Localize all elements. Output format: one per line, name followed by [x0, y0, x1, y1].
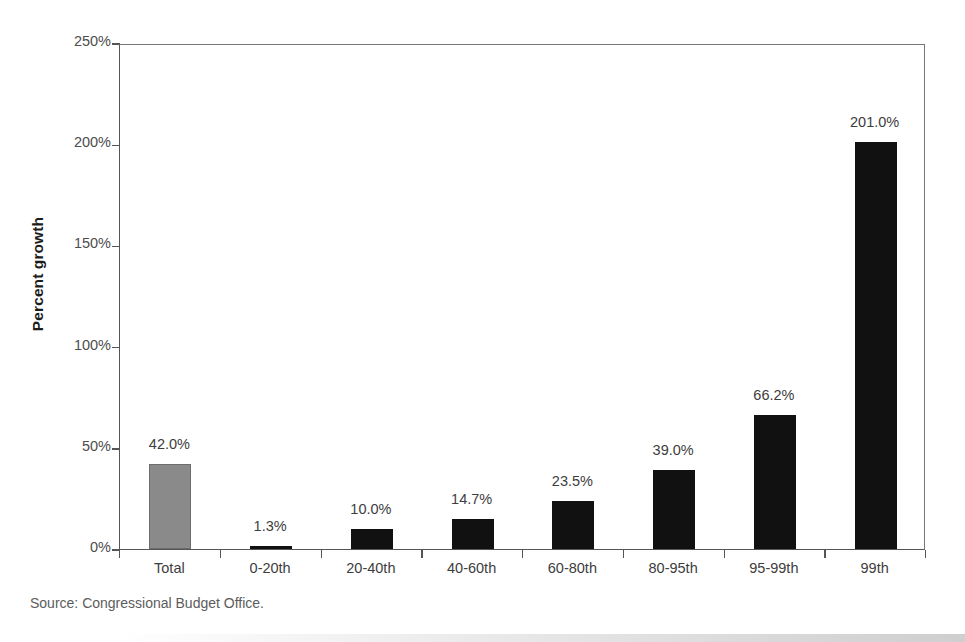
bar-40-60th[interactable] — [452, 519, 494, 549]
y-tick-label: 250% — [74, 33, 111, 49]
bar-value-label: 1.3% — [254, 518, 287, 534]
x-tick-mark — [220, 550, 221, 558]
x-tick-mark — [321, 550, 322, 558]
x-category-label: 40-60th — [447, 560, 496, 576]
bar-value-label: 23.5% — [552, 473, 593, 489]
bar-value-label: 39.0% — [653, 442, 694, 458]
bar-60-80th[interactable] — [552, 501, 594, 549]
x-tick-mark — [925, 550, 926, 558]
x-category-label: 20-40th — [346, 560, 395, 576]
y-tick-label: 150% — [74, 235, 111, 251]
bar-total[interactable] — [149, 464, 191, 549]
x-category-label: 95-99th — [749, 560, 798, 576]
y-tick-label: 100% — [74, 337, 111, 353]
bar-20-40th[interactable] — [351, 529, 393, 549]
x-category-label: 80-95th — [649, 560, 698, 576]
y-axis-title: Percent growth — [29, 184, 47, 364]
bar-80-95th[interactable] — [653, 470, 695, 549]
x-tick-mark — [623, 550, 624, 558]
x-tick-mark — [421, 550, 422, 558]
bar-value-label: 10.0% — [350, 501, 391, 517]
y-tick-label: 50% — [82, 438, 111, 454]
y-tick-label: 0% — [90, 539, 111, 555]
source-note: Source: Congressional Budget Office. — [30, 595, 264, 611]
x-tick-mark — [522, 550, 523, 558]
bar-value-label: 66.2% — [753, 387, 794, 403]
x-category-label: 99th — [861, 560, 889, 576]
x-category-label: 60-80th — [548, 560, 597, 576]
bar-value-label: 42.0% — [149, 436, 190, 452]
bar-95-99th[interactable] — [754, 415, 796, 549]
bar-value-label: 14.7% — [451, 491, 492, 507]
x-tick-mark — [824, 550, 825, 558]
y-tick-label: 200% — [74, 134, 111, 150]
x-category-label: Total — [154, 560, 185, 576]
x-tick-mark — [119, 550, 120, 558]
x-tick-mark — [724, 550, 725, 558]
bar-0-20th[interactable] — [250, 546, 292, 549]
page-edge-artifact — [0, 634, 965, 642]
x-category-label: 0-20th — [250, 560, 291, 576]
plot-area — [119, 44, 925, 550]
chart-figure: Percent growth 0%50%100%150%200%250% 42.… — [0, 0, 965, 642]
bar-99th[interactable] — [855, 142, 897, 549]
bar-value-label: 201.0% — [850, 114, 899, 130]
